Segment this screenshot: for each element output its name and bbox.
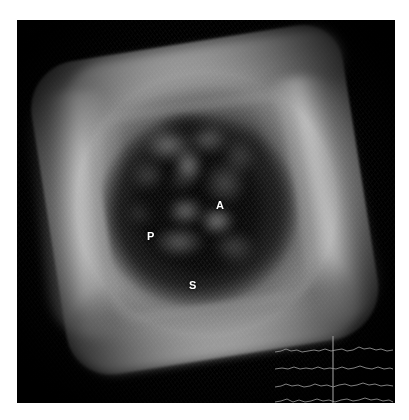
annotation-p: P	[147, 231, 155, 242]
annotation-s: S	[189, 280, 197, 291]
ecg-trace-group	[275, 347, 393, 402]
ecg-trace-4	[275, 398, 393, 402]
annotation-a: A	[216, 200, 224, 211]
ecg-trace-1	[275, 347, 393, 352]
ultrasound-scan-frame: APS	[17, 20, 395, 403]
ecg-svg	[275, 330, 395, 403]
ecg-trace-3	[275, 383, 393, 387]
ultrasound-page: APS	[0, 0, 409, 420]
ecg-trace-2	[275, 366, 393, 369]
ecg-trace-panel	[275, 330, 395, 403]
